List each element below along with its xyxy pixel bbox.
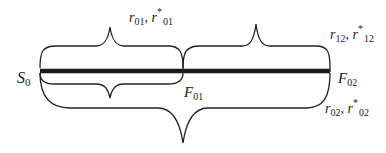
label-f02: F02 [337,70,357,88]
interval-diagram: S0 F01 F02 r01, r*01 r12, r*12 r02, r*02 [0,0,386,153]
label-r02: r02, r*02 [325,97,369,118]
brace-top-left [40,27,183,73]
label-f01: F01 [183,84,203,102]
label-r12: r12, r*12 [330,23,374,44]
label-r01: r01, r*01 [129,6,173,27]
brace-lower-left [40,73,183,98]
brace-top-right [183,24,330,72]
label-s0: S0 [17,69,31,88]
